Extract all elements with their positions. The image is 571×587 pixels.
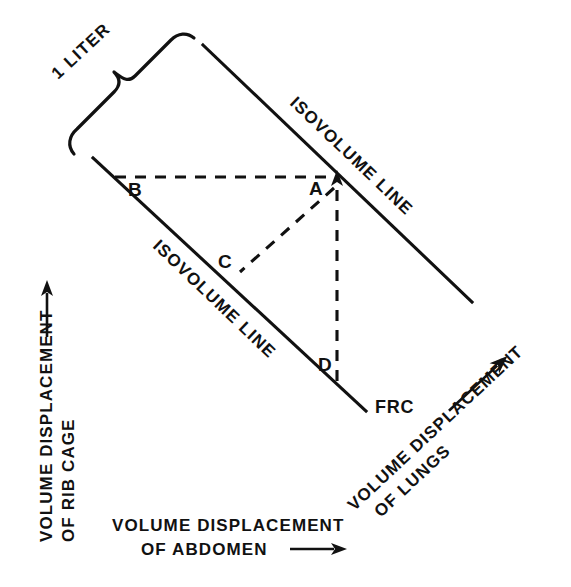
upper-isovolume-line-label: ISOVOLUME LINE: [286, 93, 416, 219]
bottom-axis-label-line1: VOLUME DISPLACEMENT: [112, 516, 344, 535]
isovolume-diagram: B A C D FRC ISOVOLUME LINE ISOVOLUME LIN…: [0, 0, 571, 587]
lower-isovolume-line-label: ISOVOLUME LINE: [149, 236, 279, 362]
figure-canvas: B A C D FRC ISOVOLUME LINE ISOVOLUME LIN…: [0, 0, 571, 587]
bottom-axis-label-line2: OF ABDOMEN: [141, 540, 268, 559]
bottom-axis-arrow-icon: [290, 543, 347, 555]
one-liter-label: 1 LITER: [48, 19, 114, 83]
right-axis-arrow-icon: [444, 351, 512, 416]
frc-label: FRC: [375, 397, 414, 417]
dashed-line-a-to-c: [240, 188, 334, 272]
point-label-a: A: [309, 178, 323, 199]
left-axis-label-group: VOLUME DISPLACEMENT OF RIB CAGE: [37, 280, 78, 542]
point-label-d: D: [318, 354, 332, 375]
point-label-b: B: [128, 179, 142, 200]
left-axis-label-line1: VOLUME DISPLACEMENT: [37, 310, 56, 542]
point-label-c: C: [218, 251, 232, 272]
right-axis-label-group: VOLUME DISPLACEMENT OF LUNGS: [343, 341, 542, 531]
bottom-axis-label-group: VOLUME DISPLACEMENT OF ABDOMEN: [112, 516, 347, 559]
left-axis-label-line2: OF RIB CAGE: [59, 418, 78, 542]
